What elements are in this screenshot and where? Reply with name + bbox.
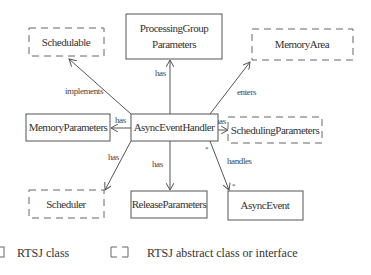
node-scheduler: Scheduler [29,190,104,218]
legend-abstract-swatch [111,247,128,257]
multiplicity-target: * [232,182,236,190]
legend-abstract-label: RTSJ abstract class or interface [147,246,298,260]
node-label: Schedulable [42,36,91,48]
node-async-event: AsyncEvent [228,191,303,220]
node-label: AsyncEvent [241,199,290,211]
node-processing-group-parameters: ProcessingGroup Parameters [126,14,222,59]
node-memory-parameters: MemoryParameters [26,114,110,141]
edge-label-has: has [108,152,120,162]
edge-has-memory-parameters: has [111,115,131,128]
node-label: MemoryParameters [29,121,108,133]
node-label: Scheduler [46,198,86,210]
uml-diagram: has implements enters has has has has ha… [0,0,371,275]
legend-class-swatch [0,247,4,257]
edge-handles-async-event: handles * * [205,141,253,190]
edge-label-handles: handles [227,156,253,166]
node-schedulable: Schedulable [29,28,104,56]
edge-label-has: has [115,115,127,125]
edge-has-release-parameters: has [152,141,170,190]
node-label: AsyncEventHandler [134,121,216,133]
edge-enters-memory-area: enters [210,62,257,114]
multiplicity-source: * [205,145,209,153]
node-label: ReleaseParameters [132,198,207,210]
edge-implements-schedulable: implements [65,59,131,114]
node-label: MemoryArea [275,38,330,50]
node-memory-area: MemoryArea [252,29,353,60]
node-scheduling-parameters: SchedulingParameters [228,117,322,143]
node-async-event-handler: AsyncEventHandler [131,114,218,141]
legend-class-label: RTSJ class [17,246,70,260]
node-label: SchedulingParameters [231,124,320,136]
edge-has-processing-group: has [155,60,170,114]
node-release-parameters: ReleaseParameters [131,191,207,218]
edge-label-implements: implements [65,86,104,96]
edge-label-has: has [155,68,167,78]
legend: RTSJ class RTSJ abstract class or interf… [0,246,298,260]
edge-has-scheduler: has [105,141,131,190]
edge-label-enters: enters [237,87,257,97]
node-label-line2: Parameters [152,38,196,50]
edge-label-has: has [152,159,164,169]
node-label-line1: ProcessingGroup [140,22,209,34]
